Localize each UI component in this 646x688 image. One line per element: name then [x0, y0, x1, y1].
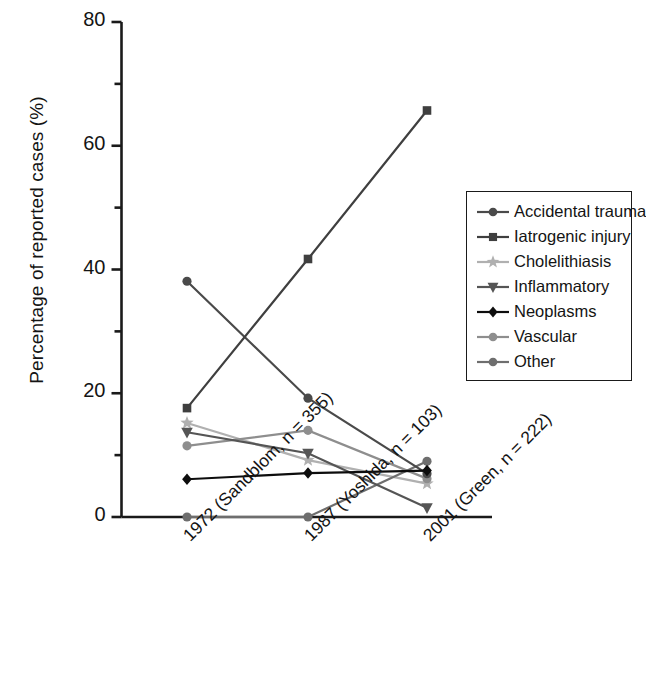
legend-item-neoplasms[interactable]: Neoplasms: [467, 299, 631, 324]
data-point-marker: [489, 357, 498, 366]
legend-symbol: [474, 351, 512, 373]
data-point-marker: [182, 277, 191, 286]
data-point-marker: [183, 404, 192, 413]
legend-marker-icon: [474, 351, 512, 373]
marker-circle: [489, 357, 498, 366]
marker-circle: [489, 332, 498, 341]
legend-marker-icon: [474, 226, 512, 248]
y-axis-tick-label: 20: [58, 379, 106, 402]
legend-item-cholelithiasis[interactable]: Cholelithiasis: [467, 249, 631, 274]
data-point-marker: [423, 106, 432, 115]
marker-diamond: [182, 473, 192, 485]
marker-square: [183, 404, 192, 413]
data-point-marker: [489, 232, 497, 240]
legend-item-label: Other: [512, 353, 555, 370]
legend-symbol: [474, 276, 512, 298]
marker-diamond: [488, 306, 497, 317]
y-axis-tick-label: 0: [58, 503, 106, 526]
legend-item-vascular[interactable]: Vascular: [467, 324, 631, 349]
data-point-marker: [303, 467, 313, 479]
data-point-marker: [487, 255, 500, 267]
legend-marker-icon: [474, 251, 512, 273]
legend-symbol: [474, 226, 512, 248]
legend-marker-icon: [474, 326, 512, 348]
y-axis-tick-label: 40: [58, 256, 106, 279]
legend-item-label: Neoplasms: [512, 303, 597, 320]
marker-star: [180, 416, 193, 429]
y-axis-tick-label: 80: [58, 8, 106, 31]
y-axis-title: Percentage of reported cases (%): [26, 0, 48, 500]
marker-square: [489, 232, 497, 240]
legend-marker-icon: [474, 301, 512, 323]
legend-item-label: Vascular: [512, 328, 577, 345]
marker-triangle-down: [421, 503, 433, 514]
legend-item-label: Accidental trauma: [512, 203, 646, 220]
data-point-marker: [182, 441, 191, 450]
y-axis-tick-label: 60: [58, 132, 106, 155]
data-point-marker: [421, 503, 433, 514]
marker-circle: [489, 207, 498, 216]
marker-circle: [182, 441, 191, 450]
legend-symbol: [474, 301, 512, 323]
marker-square: [304, 255, 313, 264]
data-point-marker: [304, 255, 313, 264]
legend-item-iatrogenic-injury[interactable]: Iatrogenic injury: [467, 224, 631, 249]
legend-symbol: [474, 201, 512, 223]
marker-circle: [182, 277, 191, 286]
data-point-marker: [180, 416, 193, 429]
legend-item-inflammatory[interactable]: Inflammatory: [467, 274, 631, 299]
data-point-marker: [489, 207, 498, 216]
marker-square: [423, 106, 432, 115]
legend-marker-icon: [474, 276, 512, 298]
marker-diamond: [303, 467, 313, 479]
marker-star: [487, 255, 500, 267]
data-point-marker: [489, 332, 498, 341]
data-point-marker: [182, 473, 192, 485]
legend-item-label: Inflammatory: [512, 278, 609, 295]
data-point-marker: [422, 457, 431, 466]
data-point-marker: [488, 306, 497, 317]
legend-item-label: Cholelithiasis: [512, 253, 611, 270]
legend: Accidental traumaIatrogenic injuryCholel…: [466, 191, 632, 381]
legend-item-accidental-trauma[interactable]: Accidental trauma: [467, 199, 631, 224]
legend-item-other[interactable]: Other: [467, 349, 631, 374]
marker-circle: [422, 457, 431, 466]
legend-item-label: Iatrogenic injury: [512, 228, 630, 245]
legend-marker-icon: [474, 201, 512, 223]
legend-symbol: [474, 251, 512, 273]
legend-symbol: [474, 326, 512, 348]
